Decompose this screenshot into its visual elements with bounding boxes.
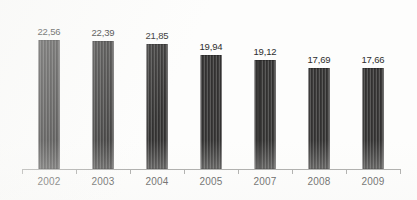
bar[interactable]	[93, 41, 114, 169]
bar-value-label: 17,66	[361, 55, 384, 65]
bar-group: 22,56	[22, 0, 76, 200]
bar-value-label: 19,94	[199, 42, 222, 52]
bar-group: 17,66	[346, 0, 400, 200]
x-axis-tick	[22, 169, 23, 174]
bar-value-label: 21,85	[145, 31, 168, 41]
x-axis-label-2004: 2004	[130, 177, 184, 187]
x-axis-label-2002: 2002	[22, 177, 76, 187]
x-axis-line	[22, 169, 400, 170]
plot-area: 22,5622,3921,8519,9419,1217,6917,66	[0, 0, 417, 200]
x-axis-tick	[346, 169, 347, 174]
bar[interactable]	[255, 60, 276, 169]
x-axis-tick	[76, 169, 77, 174]
bar-group: 21,85	[130, 0, 184, 200]
x-axis-tick	[184, 169, 185, 174]
x-axis-label-2009: 2009	[346, 177, 400, 187]
bar-value-label: 22,56	[37, 27, 60, 37]
bar[interactable]	[39, 40, 60, 169]
bar-value-label: 22,39	[91, 28, 114, 38]
bar[interactable]	[201, 55, 222, 169]
x-axis-tick	[238, 169, 239, 174]
x-axis-label-2005: 2005	[184, 177, 238, 187]
bar-value-label: 17,69	[307, 55, 330, 65]
bar-value-label: 19,12	[253, 47, 276, 57]
bar-group: 22,39	[76, 0, 130, 200]
x-axis-label-2008: 2008	[292, 177, 346, 187]
x-axis-tick	[292, 169, 293, 174]
bar[interactable]	[147, 44, 168, 169]
x-axis-tick	[130, 169, 131, 174]
bar[interactable]	[309, 68, 330, 169]
x-axis-label-2003: 2003	[76, 177, 130, 187]
bar-group: 17,69	[292, 0, 346, 200]
bar[interactable]	[363, 68, 384, 169]
x-axis-label-2007: 2007	[238, 177, 292, 187]
bar-group: 19,94	[184, 0, 238, 200]
bar-group: 19,12	[238, 0, 292, 200]
x-axis-tick	[400, 169, 401, 174]
bar-chart: 22,5622,3921,8519,9419,1217,6917,66 2002…	[0, 0, 417, 200]
